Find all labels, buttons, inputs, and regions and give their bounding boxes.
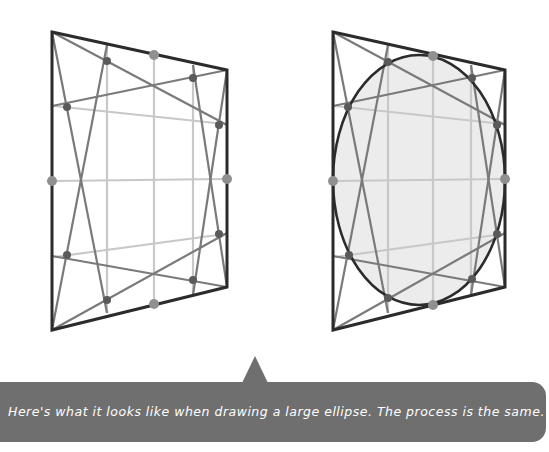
- callout-pointer: [242, 356, 268, 383]
- grid-lines: [54, 45, 225, 313]
- callout-text: Here's what it looks like when drawing a…: [8, 382, 538, 442]
- left-figure: [47, 32, 232, 330]
- callout-box: Here's what it looks like when drawing a…: [0, 382, 546, 442]
- right-figure: [328, 32, 510, 330]
